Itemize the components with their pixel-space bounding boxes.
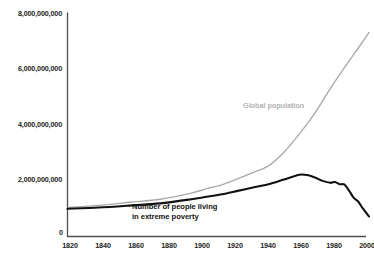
x-tick-label-1840: 1840 <box>95 241 111 250</box>
series-line-extreme-poverty <box>68 174 370 216</box>
x-tick-label-1940: 1940 <box>260 241 276 250</box>
x-tick-label-1820: 1820 <box>62 241 78 250</box>
series-label-extreme-poverty-line1: Number of people living <box>132 202 218 211</box>
x-tick-label-1980: 1980 <box>326 241 342 250</box>
x-tick-label-1860: 1860 <box>128 241 144 250</box>
y-tick-label-0: 0 <box>59 228 63 237</box>
x-tick-label-1920: 1920 <box>227 241 243 250</box>
x-tick-label-1880: 1880 <box>161 241 177 250</box>
series-label-global-population: Global population <box>243 101 304 110</box>
y-tick-label-6b: 6,000,000,000 <box>18 64 62 73</box>
chart-canvas: 8,000,000,000 6,000,000,000 4,000,000,00… <box>0 0 374 265</box>
y-tick-label-2b: 2,000,000,000 <box>18 175 62 184</box>
x-tick-label-2000: 2000 <box>359 241 374 250</box>
y-tick-label-8b: 8,000,000,000 <box>18 9 62 18</box>
x-tick-label-1900: 1900 <box>194 241 210 250</box>
x-tick-label-1960: 1960 <box>293 241 309 250</box>
line-chart: 8,000,000,000 6,000,000,000 4,000,000,00… <box>0 0 374 265</box>
series-label-extreme-poverty-line2: in extreme poverty <box>132 212 199 221</box>
y-tick-label-4b: 4,000,000,000 <box>18 120 62 129</box>
